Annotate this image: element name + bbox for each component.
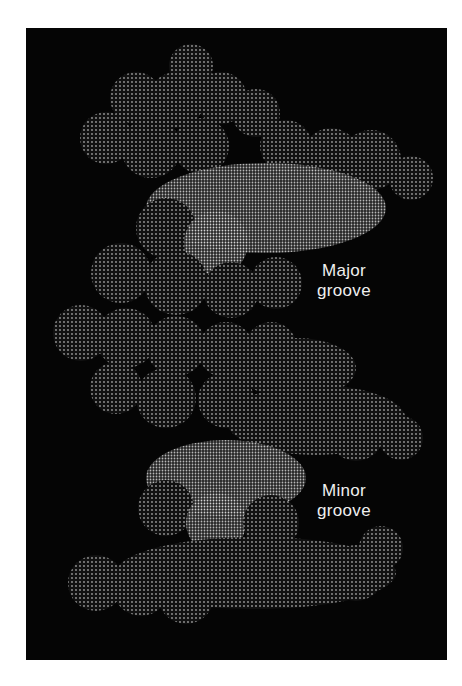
dna-space-filling-model <box>26 28 447 660</box>
minor-groove-label-line2: groove <box>302 501 386 521</box>
helix-segment-bottom <box>68 526 403 624</box>
minor-groove-label: Minor groove <box>302 481 386 521</box>
major-groove-label-line1: Major <box>302 261 386 281</box>
major-groove-label-line2: groove <box>302 281 386 301</box>
helix-segment-middle <box>53 305 423 461</box>
helix-segment-lower <box>138 440 306 553</box>
figure-panel: Major groove Minor groove <box>26 28 447 660</box>
minor-groove-label-line1: Minor <box>302 481 386 501</box>
major-groove-label: Major groove <box>302 261 386 301</box>
